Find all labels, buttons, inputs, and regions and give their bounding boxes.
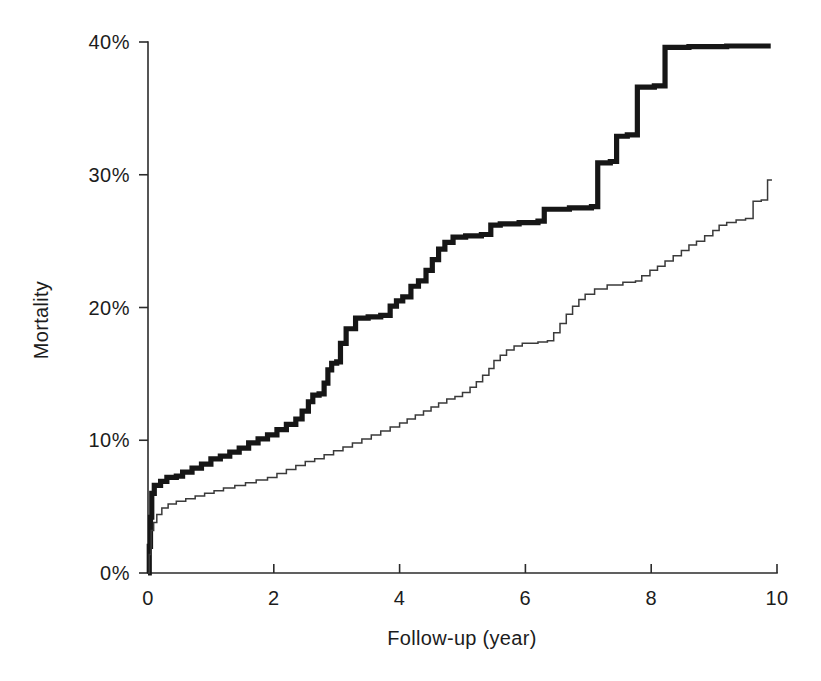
y-axis-title: Mortality	[30, 281, 52, 359]
chart-figure: 0%10%20%30%40% 0246810 Follow-up (year) …	[0, 0, 821, 681]
x-axis-ticks: 0246810	[142, 564, 788, 609]
y-tick-label: 10%	[88, 429, 130, 451]
y-tick-label: 30%	[88, 164, 130, 186]
y-axis-ticks: 0%10%20%30%40%	[88, 31, 148, 584]
y-tick-label: 40%	[88, 31, 130, 53]
x-tick-label: 6	[520, 587, 532, 609]
axes-group	[148, 42, 777, 573]
mortality-followup-chart: 0%10%20%30%40% 0246810 Follow-up (year) …	[0, 0, 821, 681]
series-upper-thick-curve	[148, 46, 771, 573]
x-tick-label: 8	[645, 587, 657, 609]
y-tick-label: 20%	[88, 297, 130, 319]
x-axis-title: Follow-up (year)	[387, 627, 536, 649]
x-tick-label: 4	[394, 587, 406, 609]
x-tick-label: 0	[142, 587, 154, 609]
y-tick-label: 0%	[100, 562, 130, 584]
x-tick-label: 10	[765, 587, 788, 609]
x-tick-label: 2	[268, 587, 280, 609]
data-series-group	[148, 46, 772, 573]
